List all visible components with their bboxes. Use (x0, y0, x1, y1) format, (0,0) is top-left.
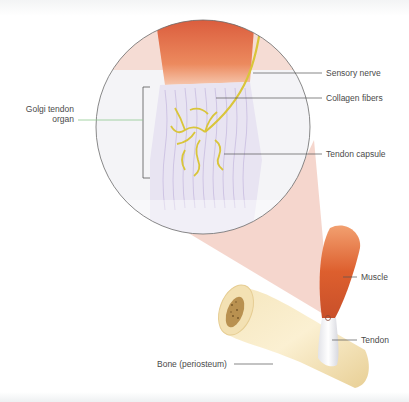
illustration (0, 0, 409, 402)
label-golgi-line1: Golgi tendon (12, 104, 74, 114)
label-bone: Bone (periosteum) (157, 359, 227, 369)
label-muscle: Muscle (361, 272, 388, 282)
label-golgi-tendon-organ: Golgi tendon organ (12, 104, 74, 124)
label-tendon-capsule: Tendon capsule (326, 149, 386, 159)
label-golgi-line2: organ (12, 114, 74, 124)
label-tendon: Tendon (361, 335, 389, 345)
label-sensory-nerve: Sensory nerve (326, 68, 381, 78)
bottom-border-strip (0, 392, 409, 402)
label-collagen-fibers: Collagen fibers (326, 93, 383, 103)
golgi-tendon-diagram: Golgi tendon organ Sensory nerve Collage… (0, 0, 409, 402)
bone-illustration (212, 280, 369, 388)
